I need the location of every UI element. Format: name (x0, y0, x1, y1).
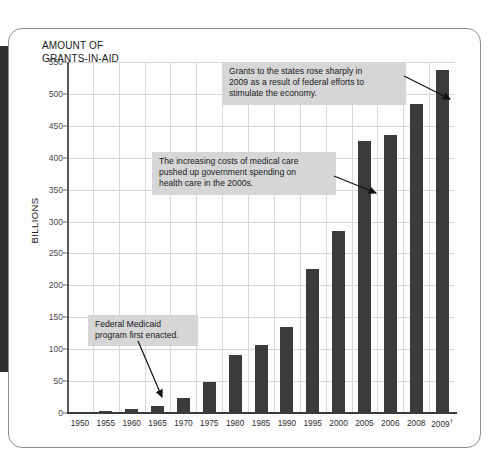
bar (384, 135, 397, 413)
gridline-vertical (300, 62, 301, 413)
gridline-vertical (274, 62, 275, 413)
y-axis-tick-mark (63, 317, 67, 318)
x-axis-tick-label: 1985 (252, 418, 270, 428)
x-axis-tick-label: 2005 (355, 418, 373, 428)
bar (306, 269, 319, 413)
x-axis-line (67, 412, 457, 414)
y-axis-tick-label: 200 (29, 280, 63, 290)
x-axis-tick-label: 1950 (71, 418, 89, 428)
gridline-vertical (170, 62, 171, 413)
gridline-vertical (377, 62, 378, 413)
gridline-vertical (352, 62, 353, 413)
y-axis-tick-label: 50 (29, 376, 63, 386)
gridline-vertical (222, 62, 223, 413)
bar (280, 327, 293, 413)
x-axis-tick-label: 1955 (97, 418, 115, 428)
gridline-vertical (326, 62, 327, 413)
gridline-horizontal (67, 126, 455, 127)
y-axis-tick-mark (63, 253, 67, 254)
annotation-stimulus: Grants to the states rose sharply in 200… (222, 62, 406, 105)
gridline-vertical (145, 62, 146, 413)
x-axis-tick-label: 2009† (431, 418, 453, 429)
gridline-vertical (403, 62, 404, 413)
plot-area (67, 62, 455, 413)
gridline-vertical (248, 62, 249, 413)
bar (229, 355, 242, 413)
gridline-vertical (93, 62, 94, 413)
x-axis-tick-label: 1990 (278, 418, 296, 428)
y-axis-tick-mark (63, 221, 67, 222)
bar (255, 345, 268, 413)
x-axis-tick-label: 1995 (303, 418, 321, 428)
y-axis-tick-label: 400 (29, 153, 63, 163)
x-axis-tick-label: 1970 (174, 418, 192, 428)
y-axis-tick-mark (63, 189, 67, 190)
x-axis-tick-label: 1965 (148, 418, 166, 428)
bar (177, 398, 190, 413)
x-axis-tick-label: 2000 (329, 418, 347, 428)
bar (436, 70, 449, 413)
y-axis-tick-label: 300 (29, 217, 63, 227)
y-axis-tick-mark (63, 349, 67, 350)
bar (358, 141, 371, 413)
y-axis-tick-mark (63, 413, 67, 414)
y-axis-tick-mark (63, 93, 67, 94)
x-axis-tick-label: 1960 (122, 418, 140, 428)
annotation-medical-costs: The increasing costs of medical care pus… (152, 152, 336, 195)
y-axis-tick-label: 100 (29, 344, 63, 354)
y-axis-tick-mark (63, 62, 67, 63)
y-axis-tick-label: 250 (29, 248, 63, 258)
y-axis-tick-label: 0 (29, 408, 63, 418)
y-axis-tick-label: 550 (29, 57, 63, 67)
x-axis-tick-label: 1980 (226, 418, 244, 428)
y-axis-tick-mark (63, 285, 67, 286)
y-axis-line (67, 62, 69, 413)
x-axis-tick-label: 2008 (407, 418, 425, 428)
gridline-vertical (119, 62, 120, 413)
y-axis-tick-label: 500 (29, 89, 63, 99)
gridline-vertical (429, 62, 430, 413)
x-axis-tick-label: 2006 (381, 418, 399, 428)
annotation-medicaid: Federal Medicaid program first enacted. (88, 315, 198, 346)
bar (332, 231, 345, 413)
y-axis-tick-labels: 050100150200250300350400450500550 (27, 62, 63, 413)
y-axis-tick-mark (63, 125, 67, 126)
x-axis-tick-label: 1975 (200, 418, 218, 428)
plot-inner (67, 62, 455, 413)
bar (410, 104, 423, 413)
y-axis-tick-mark (63, 381, 67, 382)
chart-screenshot: AMOUNT OF GRANTS-IN-AID BILLIONS 0501001… (0, 0, 489, 463)
gridline-vertical (196, 62, 197, 413)
y-axis-tick-label: 150 (29, 312, 63, 322)
y-axis-tick-label: 450 (29, 121, 63, 131)
y-axis-tick-label: 350 (29, 185, 63, 195)
y-axis-tick-mark (63, 157, 67, 158)
bar (203, 382, 216, 413)
